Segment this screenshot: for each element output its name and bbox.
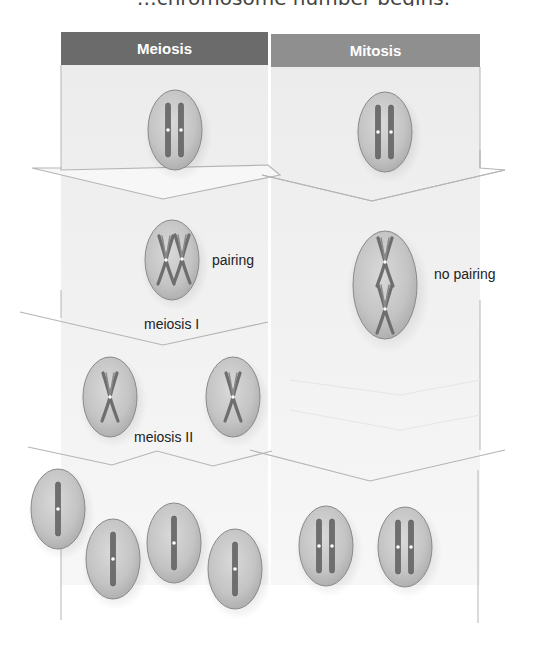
mitosis-daughter-cell-2 bbox=[374, 506, 442, 598]
meiosis-mitosis-diagram bbox=[0, 0, 551, 651]
meiosis-I-product-cell-2 bbox=[202, 356, 270, 448]
no-pairing-label: no pairing bbox=[434, 266, 496, 282]
pairing-label: pairing bbox=[212, 252, 254, 268]
mitosis-unpaired-cell bbox=[346, 229, 430, 353]
meiosis-II-product-cell-3 bbox=[143, 502, 211, 594]
meiosis-parent-cell bbox=[144, 89, 212, 181]
mitosis-parent-cell bbox=[354, 91, 422, 183]
meiosis-II-product-cell-4 bbox=[204, 528, 272, 620]
meiosis-II-label: meiosis II bbox=[134, 429, 193, 445]
meiosis-paired-homologs-cell bbox=[141, 219, 209, 311]
mitosis-daughter-cell-1 bbox=[295, 505, 363, 597]
mitosis-column-header: Mitosis bbox=[271, 34, 480, 67]
meiosis-II-product-cell-2 bbox=[82, 518, 150, 610]
meiosis-column-header: Meiosis bbox=[61, 32, 268, 65]
meiosis-I-label: meiosis I bbox=[144, 316, 199, 332]
